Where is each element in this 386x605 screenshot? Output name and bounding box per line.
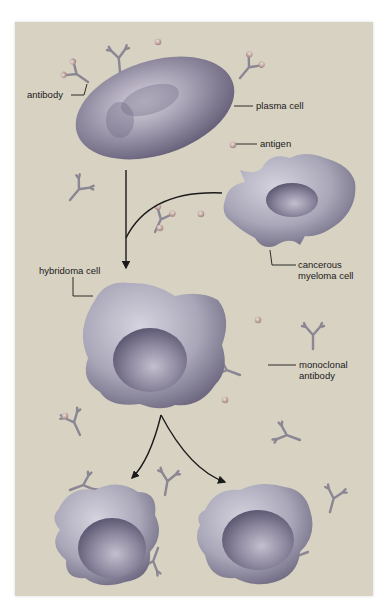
label-myeloma-line1: cancerous: [298, 259, 378, 270]
hybridoma-cell: [83, 283, 226, 409]
label-monoclonal-antibody: monoclonal antibody: [299, 359, 379, 381]
daughter-cell-right: [197, 484, 313, 584]
label-monoclonal-line1: monoclonal: [299, 359, 379, 370]
label-plasma-cell: plasma cell: [256, 100, 304, 111]
myeloma-cell: [224, 154, 356, 247]
label-myeloma-cell: cancerous myeloma cell: [298, 259, 378, 281]
label-antibody: antibody: [27, 89, 63, 100]
label-antigen: antigen: [260, 138, 291, 149]
label-myeloma-line2: myeloma cell: [298, 270, 378, 281]
daughter-cell-left: [54, 484, 159, 585]
plasma-cell: [62, 38, 247, 178]
label-hybridoma-cell: hybridoma cell: [39, 265, 100, 276]
label-monoclonal-line2: antibody: [299, 370, 379, 381]
fusion-arrows: [126, 170, 222, 268]
